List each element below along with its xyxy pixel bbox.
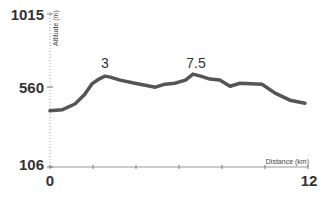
- x-axis-title: Distance (km): [266, 158, 309, 166]
- y-tick-label-max: 1015: [11, 6, 44, 23]
- elevation-chart: 1015 560 106 0 12 Altitude (m) Distance …: [0, 0, 330, 200]
- x-tick-label-start: 0: [46, 172, 54, 189]
- annotation-7-5: 7.5: [186, 55, 206, 71]
- y-tick-label-mid: 560: [19, 79, 44, 96]
- x-tick-label-end: 12: [301, 172, 318, 189]
- elevation-line: [50, 74, 305, 111]
- annotation-3: 3: [101, 55, 109, 71]
- y-axis-title: Altitude (m): [52, 10, 60, 46]
- y-tick-label-min: 106: [19, 156, 44, 173]
